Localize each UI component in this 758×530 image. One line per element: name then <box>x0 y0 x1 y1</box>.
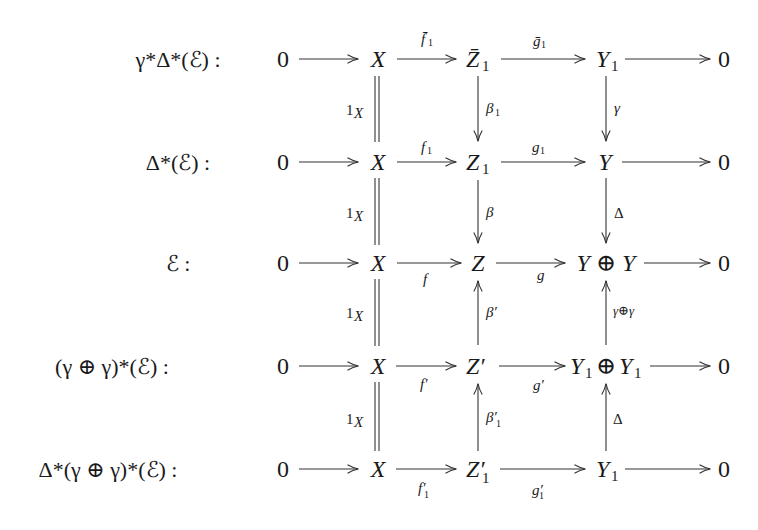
svg-text:β: β <box>485 100 494 116</box>
label-1X-r3: 1 X <box>346 305 364 324</box>
svg-text:1: 1 <box>346 205 354 221</box>
label-fprime: f′ <box>420 376 428 392</box>
verticals-r2-r3: 1 X β Δ <box>346 178 624 245</box>
svg-text:1: 1 <box>539 490 544 501</box>
svg-text:Z̄: Z̄ <box>466 46 480 72</box>
svg-text:ḡ: ḡ <box>533 33 541 49</box>
label-f1bar: f̄ 1 <box>421 31 433 48</box>
node-r5-Y1: Y 1 <box>596 456 619 484</box>
row-5: 0 X f′ 1 Z′ 1 g′ 1 Y 1 0 <box>277 456 730 501</box>
svg-text:1: 1 <box>541 39 546 50</box>
node-r4-Y1-oplus-Y1: Y 1 ⊕ Y 1 <box>570 353 642 381</box>
node-r4-X: X <box>370 353 387 379</box>
node-r1-X: X <box>370 46 387 72</box>
label-1X-r4: 1 X <box>346 411 364 430</box>
svg-text:1: 1 <box>540 145 545 156</box>
label-gamma-oplus-gamma: γ⊕γ <box>613 303 635 318</box>
svg-text:1: 1 <box>427 145 432 156</box>
label-1X-r1: 1 X <box>346 102 364 121</box>
row-4: 0 X f′ Z′ g′ Y 1 ⊕ Y 1 0 <box>277 353 730 393</box>
svg-text:1: 1 <box>634 365 642 381</box>
verticals-r1-r2: 1 X β 1 γ <box>346 76 621 142</box>
row-label-delta-E: Δ*(ℰ) : <box>146 150 210 175</box>
svg-text:1: 1 <box>496 418 501 429</box>
svg-text:1: 1 <box>611 58 619 74</box>
svg-text:X: X <box>353 414 364 430</box>
node-r3-X: X <box>370 250 387 276</box>
node-r1-Y1: Y 1 <box>596 46 619 74</box>
svg-text:1: 1 <box>482 470 490 486</box>
svg-text:f̄: f̄ <box>421 31 428 47</box>
label-beta1prime: β′ 1 <box>485 409 501 429</box>
node-r5-zero-left: 0 <box>277 456 289 482</box>
node-r5-X: X <box>370 456 387 482</box>
svg-text:1: 1 <box>482 58 490 74</box>
svg-text:g: g <box>532 139 540 155</box>
svg-text:1: 1 <box>428 37 433 48</box>
label-g1: g 1 <box>532 139 545 156</box>
node-r3-zero-right: 0 <box>718 250 730 276</box>
node-r4-Zprime: Z′ <box>466 353 485 379</box>
svg-text:Y: Y <box>619 353 635 379</box>
node-r2-Y: Y <box>598 149 614 175</box>
commutative-diagram: γ*Δ*(ℰ) : Δ*(ℰ) : ℰ : (γ ⊕ γ)*(ℰ) : Δ*(γ… <box>0 0 758 530</box>
svg-text:1: 1 <box>611 468 619 484</box>
node-r1-zero-left: 0 <box>277 46 289 72</box>
label-gprime: g′ <box>533 377 545 393</box>
svg-text:1: 1 <box>346 305 354 321</box>
row-label-delta-gamma-oplus-gamma-E: Δ*(γ ⊕ γ)*(ℰ) : <box>39 457 178 482</box>
svg-text:Z: Z <box>466 149 480 175</box>
svg-text:1: 1 <box>346 102 354 118</box>
row-label-gamma-oplus-gamma-E: (γ ⊕ γ)*(ℰ) : <box>55 354 169 379</box>
svg-text:1: 1 <box>346 411 354 427</box>
node-r2-Z1: Z 1 <box>466 149 490 177</box>
node-r1-Z1bar: Z̄ 1 <box>466 46 490 74</box>
svg-text:1: 1 <box>424 489 429 500</box>
svg-text:1: 1 <box>585 365 593 381</box>
label-beta1: β 1 <box>485 100 500 118</box>
node-r3-zero-left: 0 <box>277 250 289 276</box>
label-g: g <box>537 267 545 283</box>
label-f: f <box>423 271 429 287</box>
svg-text:Y: Y <box>570 353 586 379</box>
label-delta: Δ <box>614 205 624 221</box>
row-2: 0 X f 1 Z 1 g 1 Y 0 <box>277 139 730 177</box>
svg-text:⊕: ⊕ <box>596 353 616 379</box>
node-r1-zero-right: 0 <box>718 46 730 72</box>
label-gamma: γ <box>614 100 621 116</box>
row-label-E: ℰ : <box>166 251 191 276</box>
node-r2-X: X <box>370 149 387 175</box>
node-r4-zero-right: 0 <box>718 353 730 379</box>
label-f1: f 1 <box>421 139 432 156</box>
verticals-r4-r5: 1 X β′ 1 Δ <box>346 382 623 451</box>
label-delta-lower: Δ <box>613 411 623 427</box>
svg-text:1: 1 <box>495 107 500 118</box>
verticals-r3-r4: 1 X β′ γ⊕γ <box>346 279 635 346</box>
label-beta: β <box>485 204 494 220</box>
svg-text:X: X <box>353 208 364 224</box>
svg-text:Y: Y <box>596 456 612 482</box>
svg-text:1: 1 <box>482 161 490 177</box>
svg-text:X: X <box>353 308 364 324</box>
node-r2-zero-right: 0 <box>718 149 730 175</box>
node-r3-Y-oplus-Y: Y ⊕ Y <box>577 250 638 276</box>
svg-text:X: X <box>353 105 364 121</box>
label-betaprime: β′ <box>485 304 497 320</box>
node-r5-Z1prime: Z′ 1 <box>466 456 490 486</box>
svg-text:Y: Y <box>596 46 612 72</box>
node-r4-zero-left: 0 <box>277 353 289 379</box>
row-3: 0 X f Z g Y ⊕ Y 0 <box>277 250 730 287</box>
row-label-gamma-delta-E: γ*Δ*(ℰ) : <box>134 47 220 72</box>
label-g1bar: ḡ 1 <box>533 33 546 50</box>
node-r2-zero-left: 0 <box>277 149 289 175</box>
node-r3-Z: Z <box>471 250 485 276</box>
node-r5-zero-right: 0 <box>718 456 730 482</box>
row-1: 0 X f̄ 1 Z̄ 1 ḡ 1 Y 1 0 <box>277 31 730 74</box>
label-1X-r2: 1 X <box>346 205 364 224</box>
label-f1prime: f′ 1 <box>418 480 429 500</box>
label-g1prime: g′ 1 <box>532 482 544 501</box>
